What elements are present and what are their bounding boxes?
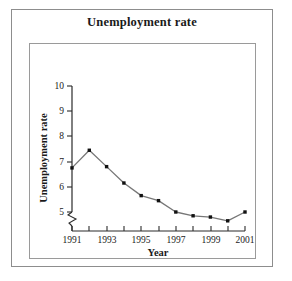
plot-area-border [29, 43, 256, 259]
chart-title: Unemployment rate [11, 15, 273, 30]
chart-figure: Unemployment rate 10 9 8 7 6 5 [0, 0, 292, 281]
